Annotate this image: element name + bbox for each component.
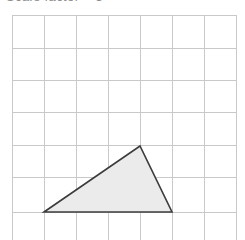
figure-canvas: Scale factor = 3 xyxy=(0,0,245,240)
grid-and-triangle-graphic xyxy=(0,0,245,240)
